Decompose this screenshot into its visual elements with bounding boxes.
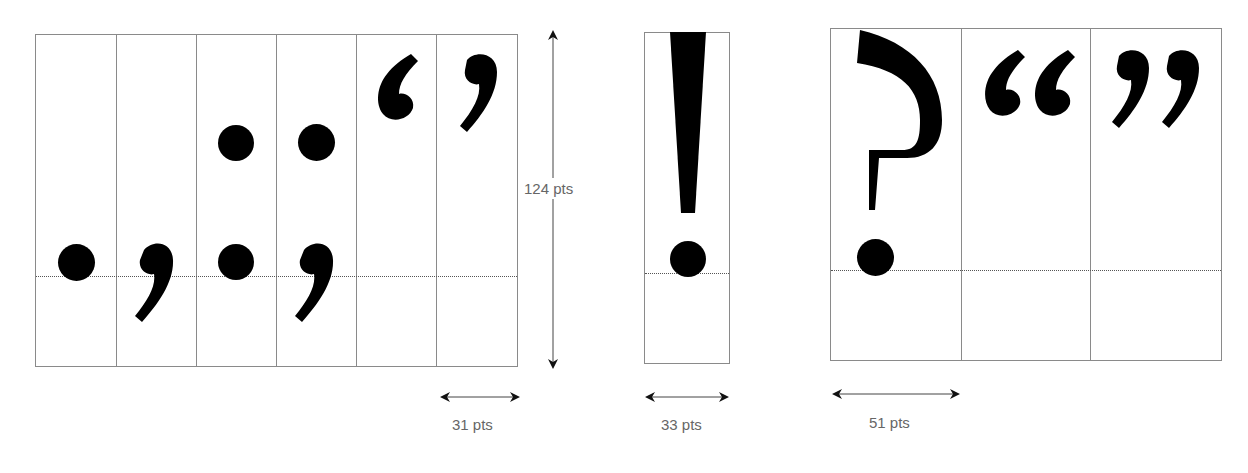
exclamation-stem-glyph [668,32,708,214]
height-label: 124 pts [524,178,573,199]
cell-divider [961,28,962,361]
width-dimension-arrow-33 [645,390,729,404]
width-label-31: 31 pts [452,416,493,433]
cell-divider [356,34,357,367]
cell-divider [1090,28,1091,361]
question-mark-glyph [857,30,947,212]
width-dimension-arrow-31 [440,390,520,404]
right-single-quote-glyph [453,52,498,132]
cell-divider [196,34,197,367]
right-double-quote-glyph [1105,48,1200,128]
cell-divider [436,34,437,367]
semicolon-dot [298,124,335,161]
baseline [831,270,1221,271]
colon-lower-dot [218,244,254,280]
left-double-quote-glyph [980,50,1075,130]
question-mark-dot [857,239,894,276]
width-label-51: 51 pts [869,414,910,431]
comma-glyph [130,240,180,325]
width-dimension-arrow-51 [832,387,960,401]
width-label-33: 33 pts [661,416,702,433]
height-dimension-arrow [546,30,560,370]
baseline [36,276,517,277]
cell-divider [276,34,277,367]
colon-upper-dot [218,125,254,161]
period-glyph [58,244,95,281]
cell-divider [116,34,117,367]
semicolon-tail-glyph [290,240,340,325]
left-single-quote-glyph [373,54,418,134]
exclamation-dot [670,241,706,277]
